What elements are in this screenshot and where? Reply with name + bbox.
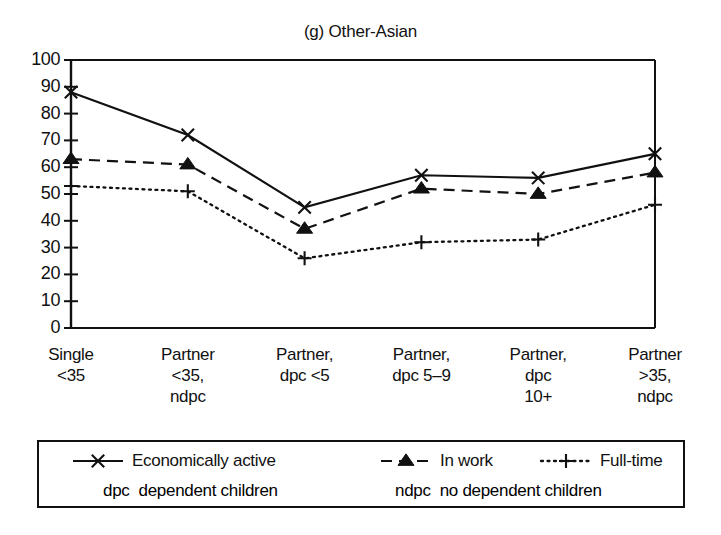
y-axis-tick-label: 40: [14, 211, 60, 229]
legend-notes-row: dpcdependent childrenndpcno dependent ch…: [39, 476, 683, 506]
legend-entry-2: In work: [379, 446, 493, 476]
data-point-marker-plus: [531, 233, 545, 247]
data-point-marker-plus: [414, 235, 428, 249]
legend-entry-3: Full-time: [539, 446, 662, 476]
data-point-marker-triangle-up-filled: [413, 182, 429, 194]
y-axis-tick-label: 100: [14, 50, 60, 68]
y-axis-tick-label: 70: [14, 130, 60, 148]
legend-entry-label: Full-time: [600, 451, 662, 471]
data-point-marker-triangle-up-filled: [63, 152, 79, 164]
y-axis-tick-label: 50: [14, 184, 60, 202]
legend-swatch-cross-x: [71, 450, 125, 472]
legend-note-1: dpcdependent children: [103, 476, 278, 506]
series-line: [71, 159, 655, 229]
data-point-marker-triangle-up-filled: [398, 454, 414, 466]
chart-series-group: [63, 86, 663, 265]
legend-entry-1: Economically active: [71, 446, 276, 476]
chart-series-2: [63, 152, 663, 233]
data-point-marker-plus: [648, 198, 662, 212]
legend-note-abbreviation: dpc: [103, 481, 130, 501]
figure-panel: (g) Other-Asian 0102030405060708090100 S…: [0, 0, 721, 535]
series-line: [71, 186, 655, 258]
y-axis-tick-label: 20: [14, 264, 60, 282]
legend-note-2: ndpcno dependent children: [395, 476, 602, 506]
legend-note-abbreviation: ndpc: [395, 481, 431, 501]
series-line: [71, 92, 655, 207]
data-point-marker-cross-x: [182, 129, 194, 141]
y-axis-tick-label: 60: [14, 157, 60, 175]
chart-legend: Economically activeIn workFull-time dpcd…: [37, 440, 685, 508]
legend-entry-label: In work: [440, 451, 493, 471]
data-point-marker-plus: [181, 184, 195, 198]
y-axis-tick-label: 10: [14, 291, 60, 309]
data-point-marker-plus: [64, 179, 78, 193]
legend-series-row: Economically activeIn workFull-time: [39, 446, 683, 476]
data-point-marker-triangle-up-filled: [647, 165, 663, 177]
data-point-marker-cross-x: [298, 201, 310, 213]
chart-series-1: [65, 86, 661, 214]
data-point-marker-plus: [559, 454, 573, 468]
y-axis-tick-label: 30: [14, 238, 60, 256]
y-axis-tick-label: 90: [14, 77, 60, 95]
chart-axes: [71, 60, 655, 328]
legend-swatch-plus: [539, 450, 593, 472]
y-axis-tick-label: 0: [14, 318, 60, 336]
data-point-marker-triangle-up-filled: [180, 157, 196, 169]
legend-note-text: no dependent children: [440, 481, 602, 501]
x-axis-tick-label: Partner >35, ndpc: [580, 344, 721, 407]
legend-note-text: dependent children: [139, 481, 278, 501]
legend-entry-label: Economically active: [132, 451, 276, 471]
data-point-marker-plus: [298, 251, 312, 265]
legend-swatch-triangle-up-filled: [379, 450, 433, 472]
y-axis-tick-label: 80: [14, 104, 60, 122]
